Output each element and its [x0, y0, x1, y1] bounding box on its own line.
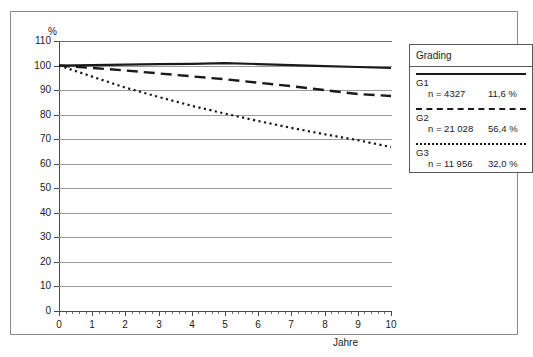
x-axis-tick-label: 7 [281, 319, 301, 330]
legend-percent-value: 11,6 % [488, 88, 517, 99]
x-axis-minor-tick [338, 312, 339, 314]
legend-entry-g2: G2n = 21 02856,4 % [410, 105, 532, 137]
legend-title: Grading [410, 45, 532, 67]
x-axis-tick-label: 9 [348, 319, 368, 330]
x-axis-minor-tick [378, 312, 379, 314]
y-axis-tick-label: 100 [15, 61, 51, 71]
x-axis-tick-label: 6 [248, 319, 268, 330]
y-axis-tick-label: 90 [15, 85, 51, 95]
legend-n-value: n = 11 956 [428, 158, 488, 169]
x-axis-minor-tick [132, 312, 133, 314]
x-axis-minor-tick [198, 312, 199, 314]
x-axis-tick-label: 4 [182, 319, 202, 330]
x-axis-minor-tick [271, 312, 272, 314]
figure-frame: % 0102030405060708090100110 012345678910… [10, 11, 518, 335]
y-axis-tick-label: 30 [15, 232, 51, 242]
legend-line-swatch-dotted [416, 140, 526, 147]
x-axis-minor-tick [139, 312, 140, 314]
y-axis-tick-label: 0 [15, 306, 51, 316]
x-axis-tick [92, 312, 93, 316]
x-axis-tick-label: 5 [215, 319, 235, 330]
figure-caption [26, 352, 446, 357]
x-axis-minor-tick [252, 312, 253, 314]
x-axis-minor-tick [119, 312, 120, 314]
x-axis-minor-tick [72, 312, 73, 314]
legend-line-swatch-dashed [416, 105, 526, 112]
x-axis-minor-tick [245, 312, 246, 314]
series-line-g2 [59, 66, 391, 96]
x-axis-tick [159, 312, 160, 316]
x-axis-minor-tick [238, 312, 239, 314]
x-axis-minor-tick [218, 312, 219, 314]
x-axis-minor-tick [311, 312, 312, 314]
y-axis-tick-label: 110 [15, 36, 51, 46]
x-axis-tick [291, 312, 292, 316]
x-axis-tick [258, 312, 259, 316]
x-axis-minor-tick [265, 312, 266, 314]
x-axis-tick [192, 312, 193, 316]
x-axis-minor-tick [145, 312, 146, 314]
x-axis-minor-tick [172, 312, 173, 314]
series-line-g3 [59, 66, 391, 147]
x-axis-minor-tick [66, 312, 67, 314]
x-axis-tick [59, 312, 60, 316]
y-axis-tick-label: 40 [15, 208, 51, 218]
x-axis-minor-tick [298, 312, 299, 314]
x-axis-tick [391, 312, 392, 316]
x-axis-tick-label: 8 [315, 319, 335, 330]
x-axis-tick [358, 312, 359, 316]
legend-group-label: G3 [416, 147, 532, 158]
x-axis-minor-tick [185, 312, 186, 314]
series-line-g1 [59, 63, 391, 68]
x-axis-tick-label: 0 [49, 319, 69, 330]
x-axis-minor-tick [152, 312, 153, 314]
legend-entry-g1: G1n = 432711,6 % [410, 70, 532, 102]
legend-line-swatch-solid [416, 70, 526, 77]
y-axis-tick-label: 70 [15, 134, 51, 144]
x-axis-minor-tick [305, 312, 306, 314]
x-axis-minor-tick [384, 312, 385, 314]
x-axis-minor-tick [99, 312, 100, 314]
x-axis-title: Jahre [333, 337, 358, 348]
legend-entries: G1n = 432711,6 %G2n = 21 02856,4 %G3n = … [410, 70, 532, 172]
y-axis-tick-label: 80 [15, 110, 51, 120]
legend-stats: n = 11 95632,0 % [416, 158, 532, 172]
x-axis-tick [325, 312, 326, 316]
x-axis-minor-tick [331, 312, 332, 314]
legend-group-label: G2 [416, 112, 532, 123]
legend-percent-value: 56,4 % [488, 123, 518, 134]
legend-n-value: n = 21 028 [428, 123, 488, 134]
series-plot [59, 41, 392, 312]
legend-percent-value: 32,0 % [488, 158, 518, 169]
x-axis-minor-tick [318, 312, 319, 314]
x-axis-minor-tick [278, 312, 279, 314]
x-axis-minor-tick [112, 312, 113, 314]
x-axis-tick-label: 10 [381, 319, 401, 330]
x-axis-tick-label: 1 [82, 319, 102, 330]
x-axis-minor-tick [86, 312, 87, 314]
y-axis-tick-label: 20 [15, 257, 51, 267]
x-axis-minor-tick [165, 312, 166, 314]
y-axis-tick-label: 10 [15, 281, 51, 291]
legend: Grading G1n = 432711,6 %G2n = 21 02856,4… [409, 44, 533, 173]
y-axis-tick-label: 50 [15, 183, 51, 193]
x-axis-minor-tick [285, 312, 286, 314]
x-axis-minor-tick [212, 312, 213, 314]
x-axis-tick [225, 312, 226, 316]
x-axis-minor-tick [371, 312, 372, 314]
x-axis-minor-tick [351, 312, 352, 314]
legend-group-label: G1 [416, 77, 532, 88]
x-axis-minor-tick [79, 312, 80, 314]
x-axis-tick-label: 2 [115, 319, 135, 330]
x-axis-minor-tick [179, 312, 180, 314]
legend-entry-g3: G3n = 11 95632,0 % [410, 140, 532, 172]
x-axis-minor-tick [105, 312, 106, 314]
x-axis-tick [125, 312, 126, 316]
legend-n-value: n = 4327 [428, 88, 488, 99]
x-axis-minor-tick [364, 312, 365, 314]
x-axis-minor-tick [345, 312, 346, 314]
legend-stats: n = 21 02856,4 % [416, 123, 532, 137]
x-axis-tick-label: 3 [149, 319, 169, 330]
x-axis-minor-tick [232, 312, 233, 314]
x-axis-minor-tick [205, 312, 206, 314]
